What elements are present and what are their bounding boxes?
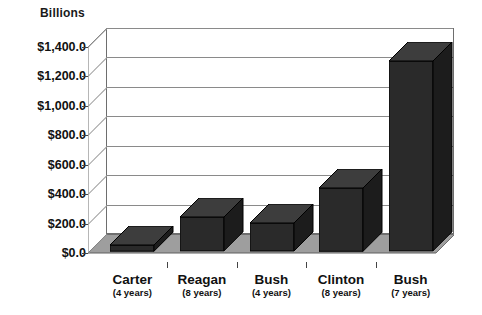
x-axis-tick-mark [167, 262, 168, 268]
category-name: Clinton [306, 272, 376, 287]
x-axis-tick-mark [376, 262, 377, 268]
y-axis-tick-label: $800.0 [8, 128, 86, 142]
y-axis-tick-label: $1,200.0 [8, 69, 86, 83]
bar [319, 190, 363, 253]
bar [110, 247, 154, 253]
bar-3d-body [319, 169, 384, 253]
bar [250, 225, 294, 253]
y-axis-tick-label: $1,000.0 [8, 99, 86, 113]
category-sublabel: (8 years) [167, 287, 237, 299]
y-axis-tick-label: $200.0 [8, 217, 86, 231]
category-name: Bush [237, 272, 307, 287]
bar [180, 219, 224, 253]
category-sublabel: (7 years) [376, 287, 446, 299]
x-axis-tick-mark [306, 262, 307, 268]
x-axis-category-labels: Carter(4 years)Reagan(8 years)Bush(4 yea… [88, 268, 454, 312]
x-axis-tick-mark [237, 262, 238, 268]
plot-area [88, 28, 454, 264]
y-axis-tick-label: $600.0 [8, 158, 86, 172]
x-axis-category-label: Reagan(8 years) [167, 272, 237, 299]
y-axis-tick-mark [82, 165, 88, 166]
gridline [107, 28, 453, 29]
x-axis-category-label: Carter(4 years) [98, 272, 168, 299]
y-axis-tick-label: $1,400.0 [8, 40, 86, 54]
y-axis-tick-label: $0.0 [8, 246, 86, 260]
category-sublabel: (8 years) [306, 287, 376, 299]
x-axis-category-label: Bush(4 years) [237, 272, 307, 299]
bar-3d-body [250, 204, 315, 253]
y-axis-tick-mark [82, 76, 88, 77]
y-axis-tick-mark [82, 106, 88, 107]
category-sublabel: (4 years) [237, 287, 307, 299]
y-axis-tick-mark [82, 135, 88, 136]
bar-3d-body [180, 198, 245, 253]
bar [389, 63, 433, 253]
y-axis-tick-labels: $1,400.0$1,200.0$1,000.0$800.0$600.0$400… [0, 0, 86, 315]
y-axis-tick-mark [82, 194, 88, 195]
category-name: Carter [98, 272, 168, 287]
y-axis-tick-mark [82, 253, 88, 254]
x-axis-category-label: Bush(7 years) [376, 272, 446, 299]
bar-3d-body [110, 226, 175, 253]
x-axis-category-label: Clinton(8 years) [306, 272, 376, 299]
y-axis-tick-label: $400.0 [8, 187, 86, 201]
category-name: Bush [376, 272, 446, 287]
category-sublabel: (4 years) [98, 287, 168, 299]
bar-chart: Billions $1,400.0$1,200.0$1,000.0$800.0$… [0, 0, 482, 315]
y-axis-tick-mark [82, 224, 88, 225]
category-name: Reagan [167, 272, 237, 287]
bar-3d-body [389, 42, 454, 253]
y-axis-tick-mark [82, 47, 88, 48]
